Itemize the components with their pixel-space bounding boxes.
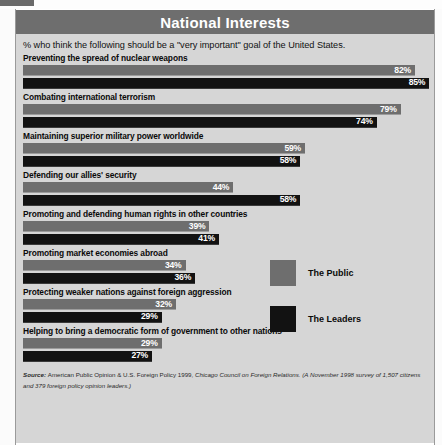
legend-swatch-leaders-icon [270,306,296,332]
bar-public: 34% [23,260,186,271]
bar-public: 29% [23,338,162,349]
bar-group: Preventing the spread of nuclear weapons… [23,53,427,89]
bar-group: Combating international terrorism79%74% [23,92,427,128]
bar-leaders: 27% [23,351,152,362]
source-roman-part: American Public Opinion & U.S. Foreign P… [48,371,193,378]
bar-group: Maintaining superior military power worl… [23,131,427,167]
bar-public: 59% [23,143,305,154]
bar-value-label: 29% [141,312,162,321]
legend-swatch-public-icon [270,260,296,286]
source-note: Source: American Public Opinion & U.S. F… [16,365,434,392]
bar-row: 58% [23,195,427,206]
chart-card: National Interests % who think the follo… [16,10,434,443]
page-frame-line-right [434,9,435,445]
bar-value-label: 27% [131,351,152,360]
bar-public: 44% [23,182,233,193]
bar-value-label: 36% [174,273,195,282]
bar-leaders: 74% [23,117,377,128]
bar-value-label: 44% [213,183,234,192]
bar-row: 58% [23,156,427,167]
bar-value-label: 58% [280,195,301,204]
bar-value-label: 85% [409,78,430,87]
page-corner-mark [0,0,34,6]
chart-title-bar: National Interests [16,10,434,34]
bar-public: 79% [23,104,401,115]
bar-public: 39% [23,221,209,232]
source-prefix: Source: [23,371,46,378]
bar-row: 41% [23,234,427,245]
bar-leaders: 85% [23,78,429,89]
bar-value-label: 34% [165,261,186,270]
bar-value-label: 29% [141,339,162,348]
page-right-margin [434,9,442,445]
legend-label-leaders: The Leaders [308,314,361,324]
bar-group-label: Maintaining superior military power worl… [23,131,427,141]
bar-public: 32% [23,299,176,310]
bar-value-label: 41% [198,234,219,243]
bar-value-label: 74% [356,117,377,126]
bar-row: 44% [23,182,427,193]
chart-legend: The Public The Leaders [270,260,420,352]
bar-group: Promoting and defending human rights in … [23,209,427,245]
page-top-margin [0,0,442,9]
bar-value-label: 59% [284,144,305,153]
legend-item-public: The Public [270,260,420,286]
bar-group-label: Combating international terrorism [23,92,427,102]
bar-group-label: Preventing the spread of nuclear weapons [23,53,427,63]
bar-row: 74% [23,117,427,128]
bar-row: 39% [23,221,427,232]
bar-public: 82% [23,65,415,76]
legend-label-public: The Public [308,268,354,278]
bar-leaders: 36% [23,273,195,284]
scanned-page: AP/Wide World National Interests % who t… [0,0,442,445]
bar-value-label: 82% [394,66,415,75]
bar-row: 27% [23,351,427,362]
chart-subtitle: % who think the following should be a "v… [16,34,434,53]
legend-item-leaders: The Leaders [270,306,420,332]
bar-row: 59% [23,143,427,154]
bar-group-label: Promoting and defending human rights in … [23,209,427,219]
bar-leaders: 58% [23,156,300,167]
bar-row: 85% [23,78,427,89]
bar-row: 79% [23,104,427,115]
bar-group: Defending our allies' security44%58% [23,170,427,206]
page-left-margin [0,9,16,445]
bar-value-label: 39% [189,222,210,231]
bar-row: 82% [23,65,427,76]
bar-group-label: Promoting market economies abroad [23,248,427,258]
bar-value-label: 32% [155,300,176,309]
bar-value-label: 58% [280,156,301,165]
page-title: National Interests [160,14,289,31]
bar-value-label: 79% [380,105,401,114]
bar-leaders: 41% [23,234,219,245]
bar-leaders: 58% [23,195,300,206]
bar-leaders: 29% [23,312,162,323]
bar-group-label: Defending our allies' security [23,170,427,180]
